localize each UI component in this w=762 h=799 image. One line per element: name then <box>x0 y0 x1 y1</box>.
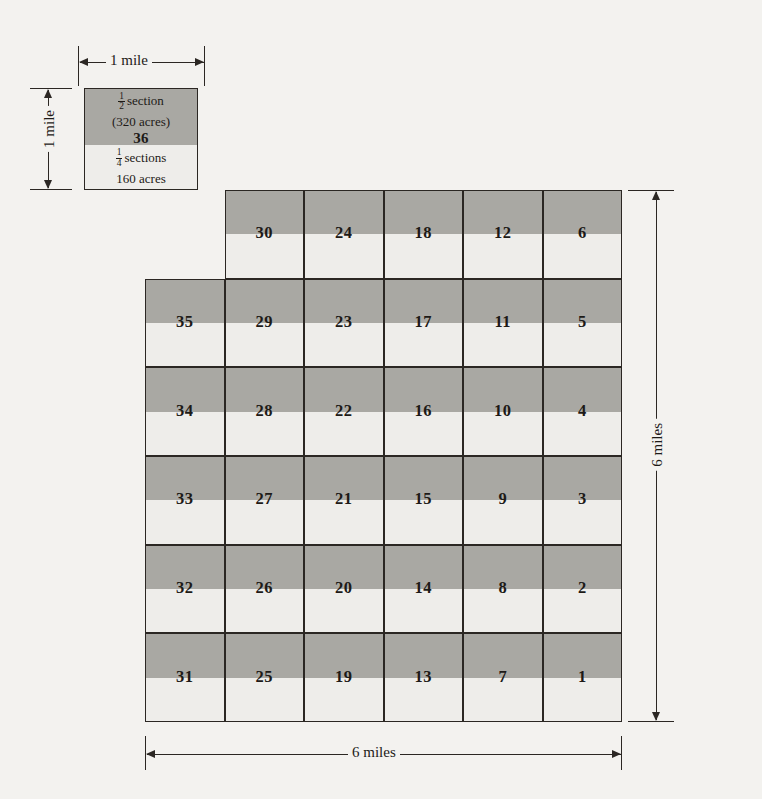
section-cell-29: 29 <box>225 279 305 368</box>
legend-half-section-word: section <box>127 93 164 108</box>
section-cell-16: 16 <box>384 367 464 456</box>
section-number-label: 23 <box>305 312 383 332</box>
section-cell-33: 33 <box>145 456 225 545</box>
section-cell-25: 25 <box>225 633 305 722</box>
dimension-left-arrow-up-icon <box>44 89 52 98</box>
section-number-label: 29 <box>226 312 304 332</box>
legend-half-section-line: 12section <box>85 92 197 112</box>
legend-half-section-acres: (320 acres) <box>85 115 197 128</box>
section-cell-26: 26 <box>225 545 305 634</box>
section-number-label: 4 <box>544 401 622 421</box>
section-cell-20: 20 <box>304 545 384 634</box>
section-number-label: 6 <box>544 224 622 244</box>
section-number-label: 25 <box>226 667 304 687</box>
section-number-label: 16 <box>385 401 463 421</box>
section-number-label: 21 <box>305 490 383 510</box>
dimension-right-tick-bottom <box>628 721 674 722</box>
dimension-left-arrow-down-icon <box>44 180 52 189</box>
section-cell-22: 22 <box>304 367 384 456</box>
section-number-label: 24 <box>305 224 383 244</box>
dimension-bottom-arrow-left-icon <box>146 750 155 758</box>
section-cell-24: 24 <box>304 190 384 279</box>
diagram-canvas: 1 mile 1 mile 12section (320 acres) 36 1… <box>0 0 762 799</box>
section-number-label: 26 <box>226 578 304 598</box>
section-number-label: 27 <box>226 490 304 510</box>
section-number-label: 14 <box>385 578 463 598</box>
section-cell-12: 12 <box>463 190 543 279</box>
section-number-label: 30 <box>226 224 304 244</box>
dimension-top-arrow-left-icon <box>79 58 88 66</box>
dimension-top-label: 1 mile <box>106 52 152 69</box>
section-cell-9: 9 <box>463 456 543 545</box>
section-cell-32: 32 <box>145 545 225 634</box>
section-number-label: 34 <box>146 401 224 421</box>
section-cell-19: 19 <box>304 633 384 722</box>
section-number-label: 22 <box>305 401 383 421</box>
dimension-top-tick-right <box>204 46 205 86</box>
dimension-right-tick-top <box>628 190 674 191</box>
section-cell-17: 17 <box>384 279 464 368</box>
half-section-fraction: 12 <box>118 92 125 112</box>
dimension-left-label: 1 mile <box>41 106 58 152</box>
section-number-label: 28 <box>226 401 304 421</box>
section-cell-5: 5 <box>543 279 623 368</box>
section-cell-23: 23 <box>304 279 384 368</box>
section-number-label: 17 <box>385 312 463 332</box>
dimension-right-arrow-up-icon <box>652 191 660 200</box>
section-cell-13: 13 <box>384 633 464 722</box>
legend-quarter-section-line: 14sections <box>85 149 197 169</box>
section-number-label: 20 <box>305 578 383 598</box>
section-number-label: 13 <box>385 667 463 687</box>
legend-quarter-section-acres: 160 acres <box>85 172 197 185</box>
section-number-label: 31 <box>146 667 224 687</box>
section-cell-2: 2 <box>543 545 623 634</box>
section-number-label: 18 <box>385 224 463 244</box>
section-cell-21: 21 <box>304 456 384 545</box>
section-number-label: 9 <box>464 490 542 510</box>
legend-section-36: 12section (320 acres) 36 14sections 160 … <box>84 88 198 190</box>
dimension-top-tick-left <box>78 46 79 86</box>
section-cell-3: 3 <box>543 456 623 545</box>
section-cell-27: 27 <box>225 456 305 545</box>
section-number-label: 8 <box>464 578 542 598</box>
section-cell-4: 4 <box>543 367 623 456</box>
section-cell-11: 11 <box>463 279 543 368</box>
section-cell-7: 7 <box>463 633 543 722</box>
section-number-label: 11 <box>464 312 542 332</box>
section-number-label: 32 <box>146 578 224 598</box>
quarter-section-fraction: 14 <box>116 148 123 168</box>
section-number-label: 15 <box>385 490 463 510</box>
dimension-bottom-tick-right <box>621 736 622 770</box>
section-cell-34: 34 <box>145 367 225 456</box>
section-cell-28: 28 <box>225 367 305 456</box>
section-cell-10: 10 <box>463 367 543 456</box>
section-number-label: 7 <box>464 667 542 687</box>
section-number-label: 12 <box>464 224 542 244</box>
section-number-label: 2 <box>544 578 622 598</box>
dimension-right-label: 6 miles <box>649 419 666 471</box>
section-number-label: 3 <box>544 490 622 510</box>
section-cell-6: 6 <box>543 190 623 279</box>
section-cell-15: 15 <box>384 456 464 545</box>
section-cell-31: 31 <box>145 633 225 722</box>
section-cell-14: 14 <box>384 545 464 634</box>
dimension-left-tick-bottom <box>30 189 72 190</box>
section-number-label: 10 <box>464 401 542 421</box>
section-cell-18: 18 <box>384 190 464 279</box>
section-number-label: 5 <box>544 312 622 332</box>
dimension-right-arrow-down-icon <box>652 712 660 721</box>
section-cell-35: 35 <box>145 279 225 368</box>
dimension-bottom-arrow-right-icon <box>612 750 621 758</box>
legend-quarter-section-word: sections <box>124 150 166 165</box>
dimension-top-arrow-right-icon <box>195 58 204 66</box>
township-section-grid: 3024181263529231711534282216104332721159… <box>145 190 622 722</box>
section-number-label: 33 <box>146 490 224 510</box>
dimension-bottom-label: 6 miles <box>348 744 400 761</box>
section-cell-30: 30 <box>225 190 305 279</box>
section-cell-1: 1 <box>543 633 623 722</box>
section-cell-8: 8 <box>463 545 543 634</box>
legend-section-number: 36 <box>85 131 197 146</box>
section-number-label: 19 <box>305 667 383 687</box>
section-number-label: 1 <box>544 667 622 687</box>
section-number-label: 35 <box>146 312 224 332</box>
